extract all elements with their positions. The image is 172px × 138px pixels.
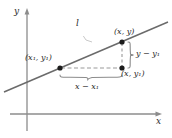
- line-label: l: [76, 19, 79, 28]
- run-label: x − x₁: [75, 83, 99, 91]
- point-label-x1-y1: (x₁, y₁): [25, 54, 52, 62]
- line-label-callout: [69, 16, 91, 36]
- y-axis: [25, 8, 30, 131]
- y-axis-label: y: [14, 7, 19, 16]
- run-brace: [60, 75, 122, 81]
- point-label-x-y1: (x, y₁): [121, 70, 145, 78]
- rise-label: y − y₁: [136, 50, 160, 58]
- point-label-x-y: (x, y): [114, 28, 134, 36]
- x-axis: [10, 112, 162, 117]
- rise-brace: [128, 42, 134, 68]
- x-axis-label: x: [156, 117, 161, 126]
- graph-figure: y x l (x₁, y₁) (x, y) (x, y₁) y − y₁ x −…: [0, 0, 172, 138]
